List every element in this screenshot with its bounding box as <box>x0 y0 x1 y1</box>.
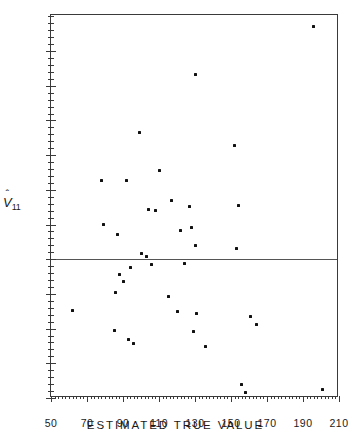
x-minor-tick <box>289 396 290 399</box>
x-major-tick <box>267 396 268 402</box>
y-minor-tick <box>51 377 54 378</box>
x-minor-tick <box>155 396 156 399</box>
y-major-tick <box>51 51 56 52</box>
y-minor-tick <box>51 127 54 128</box>
y-major-tick <box>51 294 56 295</box>
x-major-tick <box>51 396 52 402</box>
x-minor-tick <box>271 396 272 399</box>
x-minor-tick <box>58 396 59 399</box>
y-minor-tick <box>51 218 54 219</box>
data-point <box>125 179 128 182</box>
y-major-tick <box>51 190 56 191</box>
data-point <box>129 266 132 269</box>
x-minor-tick <box>152 396 153 399</box>
y-major-tick <box>51 329 56 330</box>
y-minor-tick <box>51 58 54 59</box>
x-minor-tick <box>188 396 189 399</box>
x-minor-tick <box>137 396 138 399</box>
y-major-tick <box>51 259 56 260</box>
data-point <box>100 179 103 182</box>
data-point <box>167 295 170 298</box>
x-major-tick <box>195 396 196 402</box>
v-hat-symbol: ˆV <box>3 196 12 209</box>
x-minor-tick <box>141 396 142 399</box>
x-minor-tick <box>199 396 200 399</box>
zero-reference-line <box>51 259 337 260</box>
x-minor-tick <box>310 396 311 399</box>
x-minor-tick <box>299 396 300 399</box>
y-minor-tick <box>51 169 54 170</box>
y-minor-tick <box>51 30 54 31</box>
x-minor-tick <box>314 396 315 399</box>
x-minor-tick <box>235 396 236 399</box>
data-point <box>170 199 173 202</box>
y-minor-tick <box>51 197 54 198</box>
x-major-tick <box>159 396 160 402</box>
data-point <box>116 233 119 236</box>
y-minor-tick <box>51 183 54 184</box>
x-minor-tick <box>256 396 257 399</box>
x-minor-tick <box>105 396 106 399</box>
data-point <box>244 391 247 394</box>
x-minor-tick <box>177 396 178 399</box>
y-minor-tick <box>51 231 54 232</box>
data-point <box>240 383 243 386</box>
data-point <box>190 226 193 229</box>
data-point <box>145 255 148 258</box>
x-minor-tick <box>91 396 92 399</box>
x-minor-tick <box>285 396 286 399</box>
x-minor-tick <box>249 396 250 399</box>
y-major-tick <box>51 86 56 87</box>
x-minor-tick <box>206 396 207 399</box>
x-minor-tick <box>98 396 99 399</box>
y-minor-tick <box>51 280 54 281</box>
y-minor-tick <box>51 308 54 309</box>
y-minor-tick <box>51 100 54 101</box>
plot-area: -10.0-7.5-5.0-2.502.55.07.510.012.515.0 … <box>50 14 338 397</box>
data-point <box>132 342 135 345</box>
data-point <box>140 252 143 255</box>
x-minor-tick <box>148 396 149 399</box>
y-minor-tick <box>51 252 54 253</box>
data-point <box>122 280 125 283</box>
x-minor-tick <box>274 396 275 399</box>
x-minor-tick <box>173 396 174 399</box>
data-point <box>249 315 252 318</box>
y-major-tick <box>51 155 56 156</box>
x-minor-tick <box>69 396 70 399</box>
x-minor-tick <box>109 396 110 399</box>
x-minor-tick <box>278 396 279 399</box>
y-minor-tick <box>51 65 54 66</box>
x-minor-tick <box>317 396 318 399</box>
y-major-tick <box>51 120 56 121</box>
x-minor-tick <box>191 396 192 399</box>
x-minor-tick <box>112 396 113 399</box>
x-major-tick <box>339 396 340 402</box>
x-minor-tick <box>127 396 128 399</box>
circumflex-accent: ˆ <box>5 189 9 200</box>
y-minor-tick <box>51 238 54 239</box>
x-minor-tick <box>119 396 120 399</box>
x-minor-tick <box>83 396 84 399</box>
y-major-tick <box>51 225 56 226</box>
x-minor-tick <box>181 396 182 399</box>
y-minor-tick <box>51 342 54 343</box>
x-minor-tick <box>220 396 221 399</box>
data-point <box>194 244 197 247</box>
subscript-11: 11 <box>12 202 21 212</box>
y-minor-tick <box>51 356 54 357</box>
x-minor-tick <box>296 396 297 399</box>
data-point <box>150 263 153 266</box>
data-point <box>127 338 130 341</box>
x-minor-tick <box>62 396 63 399</box>
y-minor-tick <box>51 23 54 24</box>
data-point <box>147 208 150 211</box>
data-point <box>154 209 157 212</box>
data-point <box>192 330 195 333</box>
x-major-tick <box>87 396 88 402</box>
y-minor-tick <box>51 16 54 17</box>
data-point <box>312 25 315 28</box>
x-minor-tick <box>332 396 333 399</box>
y-minor-tick <box>51 72 54 73</box>
y-minor-tick <box>51 245 54 246</box>
